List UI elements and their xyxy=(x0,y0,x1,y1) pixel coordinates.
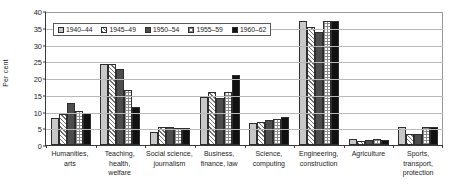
x-axis-category-label: Engineering,construction xyxy=(294,149,344,178)
gridline xyxy=(46,96,443,97)
bar xyxy=(100,64,108,145)
y-axis-tick-mark xyxy=(43,79,46,80)
x-axis-category-label-line: transport, xyxy=(394,159,442,169)
legend-swatch-icon xyxy=(101,27,107,33)
x-axis-category-label-line: health, xyxy=(96,159,144,169)
x-axis-category-label: Agriculture xyxy=(344,149,394,178)
legend-item: 1960–62 xyxy=(232,26,266,33)
x-axis-category-label-line: Humanities, xyxy=(46,149,94,159)
y-axis-tick-label: 25 xyxy=(34,58,42,67)
y-axis-tick-mark xyxy=(43,146,46,147)
legend-label: 1955–59 xyxy=(196,26,222,33)
legend-item: 1940–44 xyxy=(58,26,92,33)
bar xyxy=(216,98,224,145)
bar xyxy=(124,90,132,145)
bar xyxy=(265,120,273,145)
x-axis-category-label: Teaching,health,welfare xyxy=(95,149,145,178)
x-axis-category-label-line: computing xyxy=(245,159,293,169)
x-axis-tick-mark xyxy=(96,145,97,148)
y-axis-tick-label: 35 xyxy=(34,24,42,33)
bar xyxy=(323,21,331,145)
gridline xyxy=(46,79,443,80)
x-axis-category-label: Science,computing xyxy=(244,149,294,178)
bar-chart: Per cent 0510152025303540 Humanities,art… xyxy=(0,0,453,194)
y-axis-tick-label: 30 xyxy=(34,41,42,50)
x-axis-tick-mark xyxy=(46,145,47,148)
bar xyxy=(108,64,116,145)
x-axis-category-labels: Humanities,artsTeaching,health,welfareSo… xyxy=(45,149,443,178)
bar xyxy=(273,119,281,145)
legend-swatch-icon xyxy=(145,27,151,33)
bar xyxy=(116,69,124,145)
y-axis-tick-label: 0 xyxy=(38,142,42,151)
legend-swatch-icon xyxy=(58,27,64,33)
y-axis-tick-mark xyxy=(43,12,46,13)
x-axis-category-label-line: welfare xyxy=(96,168,144,178)
x-axis-category-label: Humanities,arts xyxy=(45,149,95,178)
bar xyxy=(365,140,373,145)
legend-label: 1960–62 xyxy=(240,26,266,33)
bar xyxy=(257,122,265,145)
bar xyxy=(381,140,389,145)
legend-swatch-icon xyxy=(188,27,194,33)
legend-label: 1940–44 xyxy=(66,26,92,33)
y-axis-tick-label: 5 xyxy=(38,125,42,134)
x-axis-category-label-line: finance, law xyxy=(195,159,243,169)
y-axis-tick-mark xyxy=(43,45,46,46)
x-axis-tick-mark xyxy=(344,145,345,148)
x-axis-category-label-line: Business, xyxy=(195,149,243,159)
bar xyxy=(208,92,216,145)
bar xyxy=(406,134,414,145)
y-axis-tick-mark xyxy=(43,95,46,96)
y-axis-tick-label: 10 xyxy=(34,108,42,117)
bar xyxy=(51,118,59,145)
legend-label: 1950–54 xyxy=(153,26,179,33)
x-axis-tick-mark xyxy=(145,145,146,148)
bar xyxy=(182,128,190,145)
y-axis-tick-mark xyxy=(43,112,46,113)
x-axis-tick-mark xyxy=(294,145,295,148)
bar xyxy=(174,128,182,145)
bar xyxy=(349,139,357,145)
bar xyxy=(299,21,307,145)
bar xyxy=(249,123,257,145)
y-axis-tick-mark xyxy=(43,129,46,130)
x-axis-category-label-line: Sports, xyxy=(394,149,442,159)
x-axis-category-label-line: arts xyxy=(46,159,94,169)
bar xyxy=(232,75,240,145)
bar xyxy=(373,139,381,145)
x-axis-category-label-line: Teaching, xyxy=(96,149,144,159)
legend-item: 1955–59 xyxy=(188,26,222,33)
x-axis-category-label-line: journalism xyxy=(146,159,194,169)
x-axis-category-label: Sports,transport,protection xyxy=(393,149,443,178)
bar xyxy=(150,132,158,145)
bar xyxy=(281,117,289,145)
legend-item: 1945–49 xyxy=(101,26,135,33)
y-axis-tick-label: 15 xyxy=(34,91,42,100)
chart-legend: 1940–441945–491950–541955–591960–62 xyxy=(53,23,271,36)
x-axis-tick-mark xyxy=(195,145,196,148)
x-axis-category-label-line: Science, xyxy=(245,149,293,159)
gridline xyxy=(46,12,443,13)
x-axis-category-label-line: Social science, xyxy=(146,149,194,159)
x-axis-category-label-line: Agriculture xyxy=(345,149,393,159)
x-axis-category-label-line: protection xyxy=(394,168,442,178)
y-axis-label: Per cent xyxy=(2,38,9,108)
y-axis-tick-mark xyxy=(43,28,46,29)
y-axis-tick-label: 20 xyxy=(34,75,42,84)
x-axis-tick-mark xyxy=(442,145,443,148)
legend-item: 1950–54 xyxy=(145,26,179,33)
bar xyxy=(414,134,422,145)
bar xyxy=(315,32,323,145)
legend-label: 1945–49 xyxy=(109,26,135,33)
x-axis-category-label: Social science,journalism xyxy=(145,149,195,178)
x-axis-category-label-line: Engineering, xyxy=(295,149,343,159)
legend-swatch-icon xyxy=(232,27,238,33)
bar xyxy=(67,103,75,145)
x-axis-category-label: Business,finance, law xyxy=(194,149,244,178)
gridline xyxy=(46,46,443,47)
x-axis-tick-mark xyxy=(393,145,394,148)
gridline xyxy=(46,129,443,130)
bar xyxy=(75,111,83,146)
bar xyxy=(224,92,232,145)
